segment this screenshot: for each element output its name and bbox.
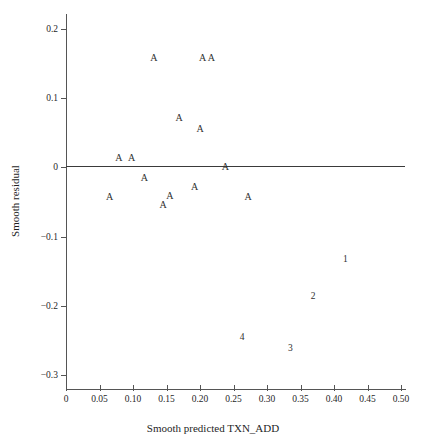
data-point-1: 1 bbox=[343, 254, 348, 264]
x-tick-mark bbox=[301, 385, 302, 391]
y-tick-label: 0 bbox=[53, 162, 58, 172]
data-point-A: A bbox=[222, 162, 229, 172]
data-point-A: A bbox=[208, 53, 215, 63]
data-point-A: A bbox=[115, 153, 122, 163]
y-tick-label: 0.2 bbox=[46, 24, 58, 34]
data-point-A: A bbox=[106, 192, 113, 202]
x-tick-mark bbox=[100, 385, 101, 391]
x-tick-mark bbox=[401, 385, 402, 391]
x-tick-mark bbox=[66, 385, 67, 391]
data-point-A: A bbox=[128, 153, 135, 163]
x-tick-label: 0.10 bbox=[125, 394, 142, 405]
x-tick-label: 0.05 bbox=[91, 394, 108, 405]
plot-area bbox=[66, 14, 405, 389]
data-point-A: A bbox=[191, 182, 198, 192]
data-point-A: A bbox=[176, 113, 183, 123]
data-point-4: 4 bbox=[240, 332, 245, 342]
x-tick-label: 0.15 bbox=[158, 394, 175, 405]
y-tick-label: 0.1 bbox=[46, 93, 58, 103]
y-tick-mark bbox=[61, 306, 67, 307]
y-tick-mark bbox=[61, 167, 67, 168]
x-tick-label: 0.30 bbox=[259, 394, 276, 405]
x-tick-label: 0.20 bbox=[192, 394, 209, 405]
y-tick-label: −0.1 bbox=[41, 232, 58, 242]
x-tick-mark bbox=[200, 385, 201, 391]
x-tick-label: 0.25 bbox=[225, 394, 242, 405]
x-tick-label: 0.45 bbox=[359, 394, 376, 405]
x-tick-mark bbox=[167, 385, 168, 391]
x-tick-mark bbox=[234, 385, 235, 391]
x-tick-label: 0.40 bbox=[326, 394, 343, 405]
data-point-A: A bbox=[245, 192, 252, 202]
y-tick-label: −0.2 bbox=[41, 301, 58, 311]
x-tick-mark bbox=[267, 385, 268, 391]
x-tick-mark bbox=[133, 385, 134, 391]
data-point-A: A bbox=[166, 191, 173, 201]
scatter-plot-figure: 0.20.10−0.1−0.2−0.3 00.050.100.150.200.2… bbox=[0, 0, 426, 445]
data-point-3: 3 bbox=[288, 343, 293, 353]
x-tick-label: 0.50 bbox=[393, 394, 410, 405]
x-tick-mark bbox=[334, 385, 335, 391]
zero-reference-line bbox=[66, 166, 405, 167]
x-axis-line bbox=[66, 389, 406, 390]
x-tick-label: 0 bbox=[64, 394, 69, 405]
y-tick-mark bbox=[61, 98, 67, 99]
x-axis-title: Smooth predicted TXN_ADD bbox=[0, 422, 426, 434]
data-point-A: A bbox=[160, 200, 167, 210]
y-tick-mark bbox=[61, 29, 67, 30]
y-axis-title: Smooth residual bbox=[9, 141, 21, 261]
y-tick-label: −0.3 bbox=[41, 370, 58, 380]
y-tick-mark bbox=[61, 237, 67, 238]
data-point-A: A bbox=[141, 173, 148, 183]
data-point-2: 2 bbox=[311, 291, 316, 301]
y-axis-line bbox=[66, 14, 67, 389]
x-tick-label: 0.35 bbox=[292, 394, 309, 405]
x-tick-mark bbox=[368, 385, 369, 391]
data-point-A: A bbox=[199, 53, 206, 63]
y-tick-mark bbox=[61, 375, 67, 376]
data-point-A: A bbox=[150, 53, 157, 63]
data-point-A: A bbox=[196, 124, 203, 134]
